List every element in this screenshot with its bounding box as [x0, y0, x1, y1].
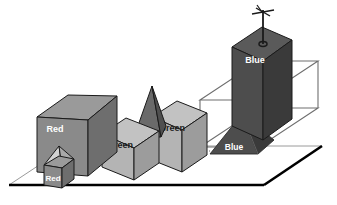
box-blue-label: Blue — [245, 55, 265, 65]
scene-diagram: Blue Blue Green — [0, 0, 337, 205]
box-red-large-label: Red — [46, 124, 63, 134]
scene-canvas: Blue Blue Green — [0, 0, 337, 205]
pyramid-blue-label: Blue — [225, 142, 244, 152]
box-blue-tower: Blue — [232, 27, 292, 140]
box-red-small-label: Red — [45, 174, 60, 183]
